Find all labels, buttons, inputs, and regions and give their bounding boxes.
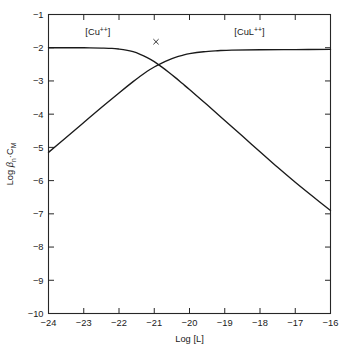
x-tick-label-2: −22: [111, 318, 127, 328]
x-tick-label-0: −24: [41, 318, 57, 328]
x-axis-title: Log [L]: [175, 334, 203, 344]
y-axis-title: Log βn·CM: [5, 142, 17, 185]
y-tick-label-7: −8: [33, 242, 44, 252]
y-axis-title-prefix: Log: [5, 167, 15, 185]
cu-species-label-close: ]: [108, 27, 111, 37]
y-tick-label-9: −10: [28, 309, 44, 319]
y-tick-label-1: −2: [33, 43, 44, 53]
chart-plot-area: −24−23−22−21−20−19−18−17−16 −1−2−3−4−5−6…: [0, 0, 350, 355]
cu-species-label-superscript: ++: [100, 26, 108, 33]
cul-species-label-close: ]: [262, 27, 265, 37]
chart-background: [0, 0, 350, 355]
x-tick-label-4: −20: [182, 318, 198, 328]
y-tick-label-0: −1: [33, 10, 44, 20]
x-tick-label-3: −21: [146, 318, 162, 328]
x-tick-label-6: −18: [252, 318, 268, 328]
y-tick-label-5: −6: [33, 176, 44, 186]
cu-species-label-base: [Cu: [85, 27, 99, 37]
y-tick-label-4: −5: [33, 143, 44, 153]
x-tick-label-7: −17: [287, 318, 303, 328]
y-tick-label-2: −3: [33, 76, 44, 86]
y-tick-label-8: −9: [33, 276, 44, 286]
chart-figure: −24−23−22−21−20−19−18−17−16 −1−2−3−4−5−6…: [0, 0, 350, 355]
cul-species-label-superscript: ++: [254, 26, 262, 33]
y-tick-label-6: −7: [33, 209, 44, 219]
y-axis-title-c-subscript: M: [10, 142, 17, 148]
x-tick-labels: −24−23−22−21−20−19−18−17−16: [41, 318, 339, 328]
cul-species-label-base: [CuL: [234, 27, 254, 37]
y-tick-label-3: −4: [33, 110, 44, 120]
x-tick-label-5: −19: [217, 318, 233, 328]
x-tick-label-1: −23: [76, 318, 92, 328]
x-tick-label-8: −16: [323, 318, 339, 328]
